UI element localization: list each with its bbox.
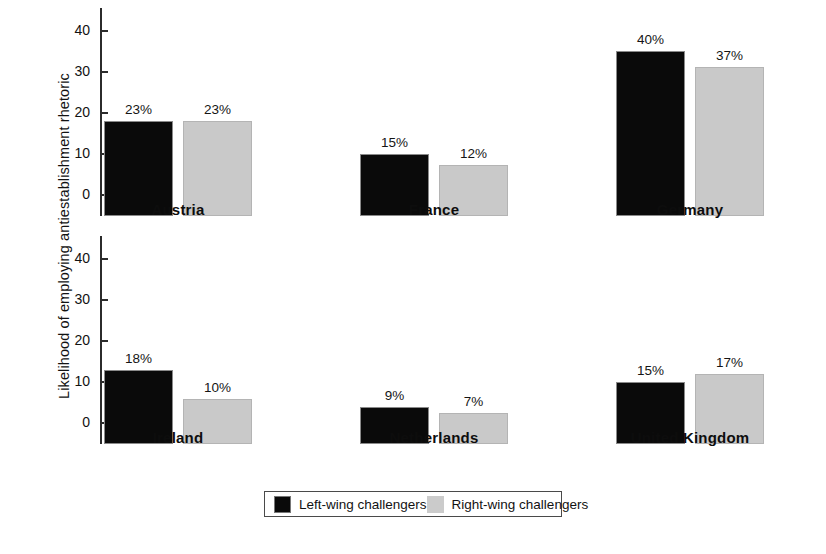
- y-axis-ticklabel-30: 30: [60, 291, 90, 307]
- bar-value-germany-left: 40%: [637, 32, 664, 47]
- y-axis-ticklabel-40: 40: [60, 22, 90, 38]
- group-label-germany: Germany: [616, 201, 764, 218]
- y-axis-ticklabel-10: 10: [60, 373, 90, 389]
- chart-legend: Left-wing challengers Right-wing challen…: [264, 491, 562, 517]
- bar-value-netherlands-right: 7%: [464, 394, 484, 409]
- bar-value-ireland-right: 10%: [204, 380, 231, 395]
- y-axis-ticklabel-0: 0: [60, 186, 90, 202]
- bar-germany-right: 37%: [695, 67, 764, 216]
- plot-area-top: 23% 23% Austria 15% 12%: [104, 8, 814, 216]
- legend-label-right-wing: Right-wing challengers: [452, 497, 589, 512]
- y-axis-ticklabel-20: 20: [60, 332, 90, 348]
- bar-group-ireland: 18% 10% Ireland: [104, 236, 282, 444]
- legend-item-right-wing: Right-wing challengers: [427, 496, 589, 513]
- legend-label-left-wing: Left-wing challengers: [299, 497, 427, 512]
- chart-panel-top: 40 30 20 10 0 23% 23% Austria: [0, 8, 826, 250]
- y-axis-top: 40 30 20 10 0: [62, 8, 102, 218]
- bar-value-austria-left: 23%: [125, 102, 152, 117]
- y-axis-ticklabel-20: 20: [60, 104, 90, 120]
- bar-group-france: 15% 12% France: [360, 8, 538, 216]
- bar-chart: Likelihood of employing antiestablishmen…: [0, 0, 826, 554]
- bar-value-ireland-left: 18%: [125, 351, 152, 366]
- legend-item-left-wing: Left-wing challengers: [274, 496, 427, 513]
- bar-value-france-right: 12%: [460, 146, 487, 161]
- bar-germany-left: 40%: [616, 51, 685, 216]
- y-axis-bottom: 40 30 20 10 0: [62, 236, 102, 446]
- y-axis-ticklabel-40: 40: [60, 250, 90, 266]
- bar-value-netherlands-left: 9%: [385, 388, 405, 403]
- legend-swatch-left-wing-icon: [274, 496, 291, 513]
- y-axis-ticklabel-30: 30: [60, 63, 90, 79]
- chart-panel-bottom: 40 30 20 10 0 18% 10% Ireland: [0, 236, 826, 478]
- bar-value-united-kingdom-left: 15%: [637, 363, 664, 378]
- group-label-france: France: [360, 201, 508, 218]
- bar-value-france-left: 15%: [381, 135, 408, 150]
- group-label-ireland: Ireland: [104, 429, 252, 446]
- group-label-united-kingdom: United Kingdom: [616, 429, 764, 446]
- bar-group-united-kingdom: 15% 17% United Kingdom: [616, 236, 794, 444]
- y-axis-ticklabel-0: 0: [60, 414, 90, 430]
- y-axis-ticklabel-10: 10: [60, 145, 90, 161]
- bar-value-germany-right: 37%: [716, 48, 743, 63]
- group-label-austria: Austria: [104, 201, 252, 218]
- bar-value-united-kingdom-right: 17%: [716, 355, 743, 370]
- bar-group-germany: 40% 37% Germany: [616, 8, 794, 216]
- bar-value-austria-right: 23%: [204, 102, 231, 117]
- legend-swatch-right-wing-icon: [427, 496, 444, 513]
- group-label-netherlands: Netherlands: [360, 429, 508, 446]
- plot-area-bottom: 18% 10% Ireland 9% 7%: [104, 236, 814, 444]
- bar-group-netherlands: 9% 7% Netherlands: [360, 236, 538, 444]
- bar-group-austria: 23% 23% Austria: [104, 8, 282, 216]
